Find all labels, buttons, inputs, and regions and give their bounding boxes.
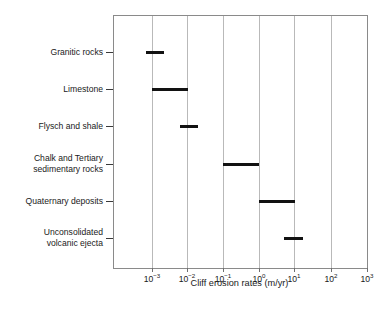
range-bar — [259, 200, 295, 203]
category-label: Chalk and Tertiary sedimentary rocks — [33, 153, 103, 175]
gridline-1e0 — [259, 16, 260, 268]
category-tick — [106, 89, 113, 90]
category-tick — [106, 201, 113, 202]
gridline-1e2 — [331, 16, 332, 268]
category-tick — [106, 52, 113, 53]
category-tick — [106, 164, 113, 165]
range-bar — [223, 163, 259, 166]
category-label: Limestone — [63, 84, 103, 95]
cliff-erosion-rates-chart: Granitic rocks Limestone Flysch and shal… — [0, 0, 383, 322]
gridline-1e-2 — [187, 16, 188, 268]
gridline-1e-1 — [223, 16, 224, 268]
xtick-1e0 — [259, 268, 260, 272]
category-label: Flysch and shale — [39, 121, 104, 132]
category-label: Quaternary deposits — [26, 196, 103, 207]
range-bar — [284, 237, 303, 240]
xtick-1e2 — [331, 268, 332, 272]
range-bar — [146, 51, 164, 54]
x-axis-title: Cliff erosion rates (m/yr) — [113, 278, 366, 288]
category-label: Unconsolidated volcanic ejecta — [44, 227, 103, 249]
xtick-1e1 — [294, 268, 295, 272]
category-tick — [106, 126, 113, 127]
xtick-label-exponent: 3 — [370, 272, 373, 279]
range-bar — [152, 88, 188, 91]
xtick-1e3 — [367, 268, 368, 272]
plot-area: Granitic rocks Limestone Flysch and shal… — [113, 15, 368, 269]
category-tick — [106, 238, 113, 239]
category-label: Granitic rocks — [50, 47, 103, 58]
range-bar — [180, 125, 198, 128]
gridline-1e1 — [294, 16, 295, 268]
